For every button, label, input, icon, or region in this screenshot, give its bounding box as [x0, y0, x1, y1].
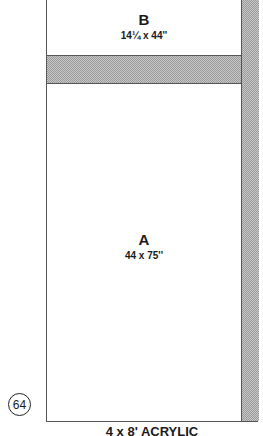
panel-b-label: B — [47, 12, 241, 28]
panel-b: B 14¼ x 44'' — [47, 0, 241, 55]
panel-a-label: A — [47, 232, 241, 248]
panel-b-dimensions: 14¼ x 44'' — [47, 30, 241, 42]
waste-strip-vertical — [241, 0, 259, 421]
acrylic-sheet-diagram: B 14¼ x 44'' A 44 x 75'' — [46, 0, 258, 422]
panel-a-dimensions: 44 x 75'' — [47, 250, 241, 262]
figure-number-badge: 64 — [8, 393, 31, 416]
panel-a: A 44 x 75'' — [47, 84, 241, 421]
waste-strip-horizontal — [47, 55, 259, 84]
diagram-caption: 4 x 8' ACRYLIC — [46, 425, 258, 436]
